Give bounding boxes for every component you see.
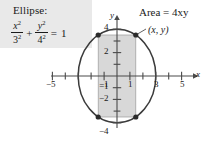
y-axis-arrow [114, 15, 120, 20]
point-leader-line [138, 29, 147, 34]
y-tick-label-4: 4 [104, 22, 109, 32]
corner-point-bottom-left [96, 114, 101, 119]
x-axis-label: x [196, 69, 200, 79]
y-tick-label-2: 2 [104, 46, 109, 56]
y-axis-label: y [110, 10, 114, 20]
y-tick-label-neg2: −2 [99, 93, 109, 103]
x-tick-label-3: 3 [154, 79, 159, 89]
x-tick-label-neg5: −5 [46, 79, 56, 89]
x-tick-label-1: 1 [128, 79, 133, 89]
corner-point-top-left [96, 32, 101, 37]
y-tick-label-neg4: −4 [99, 126, 109, 136]
corner-point-bottom-right [133, 114, 138, 119]
y-tick-label-neg1: −1 [99, 81, 109, 91]
corner-point-top-right [133, 32, 138, 37]
ellipse-figure: Ellipse: x2 32 + y2 42 = 1 Area = 4xy (x… [0, 0, 205, 145]
x-tick-label-5: 5 [180, 79, 185, 89]
plot-area [0, 0, 205, 145]
